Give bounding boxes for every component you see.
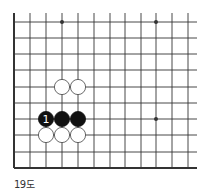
white-stone xyxy=(54,127,69,142)
black-stone xyxy=(70,111,85,126)
move-number-label: 1 xyxy=(43,113,50,126)
white-stone xyxy=(70,79,85,94)
black-stone xyxy=(54,111,69,126)
white-stone xyxy=(54,79,69,94)
star-point-icon xyxy=(154,117,158,121)
star-point-icon xyxy=(154,20,158,24)
go-board: 1 xyxy=(0,0,210,176)
diagram-caption: 19도 xyxy=(14,176,34,189)
white-stone xyxy=(38,127,53,142)
star-point-icon xyxy=(60,20,64,24)
white-stone xyxy=(70,127,85,142)
